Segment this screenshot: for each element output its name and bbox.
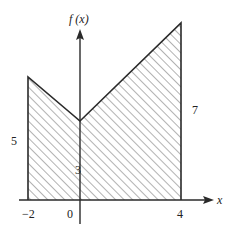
shaded-area	[28, 23, 181, 200]
area-under-curve-figure: f (x) x −2 0 4 5 3 7	[0, 0, 235, 239]
y-axis-label: f (x)	[69, 12, 89, 26]
tick-label-neg2: −2	[22, 207, 35, 221]
height-label-mid: 3	[75, 163, 81, 177]
tick-label-4: 4	[177, 207, 183, 221]
tick-label-0: 0	[67, 207, 73, 221]
x-axis-label: x	[216, 193, 223, 207]
height-label-left: 5	[11, 134, 17, 148]
height-label-right: 7	[192, 103, 198, 117]
